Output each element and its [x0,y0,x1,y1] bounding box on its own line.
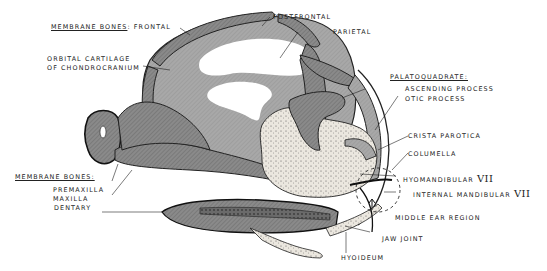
label-dentary: DENTARY [54,205,91,211]
label-ascending-process: ASCENDING PROCESS [405,86,494,92]
label-columella: COLUMELLA [408,151,457,157]
skull-diagram: MEMBRANE BONES: FRONTAL ORBITAL CARTILAG… [0,0,547,271]
label-internal-mandibular-num: VII [514,188,531,199]
label-palatoquadrate: PALATOQUADRATE: [390,74,468,80]
label-membrane-bones-top: MEMBRANE BONES: FRONTAL [51,24,171,30]
label-orbital-cartilage-line2: OF CHONDROCRANIUM [47,65,140,71]
label-otic-process: OTIC PROCESS [405,96,465,102]
label-internal-mandibular: INTERNAL MANDIBULAR VII [413,189,531,199]
label-premaxilla: PREMAXILLA [53,187,104,193]
label-hyomandibular: HYOMANDIBULAR VII [403,174,494,184]
label-hyomandibular-num: VII [477,173,494,184]
membrane-bones-sep: : [127,23,130,31]
label-frontal: FRONTAL [134,23,171,31]
nostril [100,126,106,138]
label-parietal: PARIETAL [333,29,371,35]
label-internal-mandibular-text: INTERNAL MANDIBULAR [413,191,511,199]
label-crista-parotica: CRISTA PAROTICA [408,133,481,139]
label-membrane-bones-bottom: MEMBRANE BONES: [15,174,95,180]
label-maxilla: MAXILLA [53,196,89,202]
label-middle-ear-region: MIDDLE EAR REGION [395,215,481,221]
label-jaw-joint: JAW JOINT [382,236,424,242]
nerve-vii-branch [360,188,373,232]
label-postfrontal: POSTFRONTAL [273,14,331,20]
label-hyoideum: HYOIDEUM [341,255,384,261]
membrane-bones-heading: MEMBRANE BONES [51,23,127,31]
label-hyomandibular-text: HYOMANDIBULAR [403,176,474,184]
label-orbital-cartilage-line1: ORBITAL CARTILAGE [47,56,130,62]
